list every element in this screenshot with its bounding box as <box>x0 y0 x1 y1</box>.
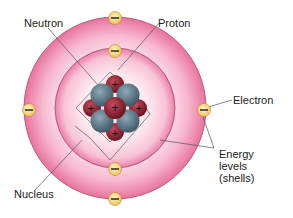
svg-text:+: + <box>88 102 94 114</box>
label-neutron: Neutron <box>24 17 63 29</box>
label-energy-line2: levels <box>219 160 254 172</box>
label-proton: Proton <box>158 17 190 29</box>
electron <box>23 104 36 117</box>
electron <box>109 45 122 58</box>
svg-text:+: + <box>111 101 118 115</box>
atom-diagram: + + + + + <box>0 0 293 218</box>
electron <box>109 12 122 25</box>
electron <box>109 193 122 206</box>
label-energy-line3: (shells) <box>219 172 254 184</box>
electron <box>109 163 122 176</box>
proton: + <box>104 97 126 119</box>
label-nucleus: Nucleus <box>14 188 54 200</box>
label-energy-levels: Energy levels (shells) <box>219 148 254 184</box>
svg-text:+: + <box>112 127 118 139</box>
svg-text:+: + <box>112 78 118 90</box>
label-energy-line1: Energy <box>219 148 254 160</box>
svg-text:+: + <box>136 102 142 114</box>
label-electron: Electron <box>233 94 273 106</box>
electron <box>198 104 211 117</box>
